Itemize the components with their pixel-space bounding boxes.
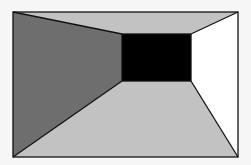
perspective-room-diagram	[0, 0, 251, 165]
back-wall	[122, 34, 191, 81]
